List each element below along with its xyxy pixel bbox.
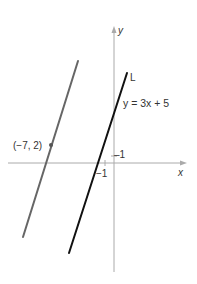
- point-marker: [49, 143, 53, 147]
- point-label: (−7, 2): [13, 140, 42, 151]
- y-axis-label: y: [117, 25, 124, 36]
- y-tick-label: –1: [114, 149, 126, 160]
- x-axis-label: x: [177, 167, 184, 178]
- coordinate-graph: y x –1 −1 (−7, 2) L y = 3x + 5: [0, 0, 197, 284]
- x-tick-label: −1: [96, 168, 108, 179]
- y-tick-label-value: 1: [120, 149, 126, 160]
- line-L-name: L: [130, 72, 136, 83]
- y-axis-arrow-icon: [112, 26, 117, 33]
- x-axis-arrow-icon: [180, 161, 187, 166]
- line-L-equation: y = 3x + 5: [123, 97, 169, 109]
